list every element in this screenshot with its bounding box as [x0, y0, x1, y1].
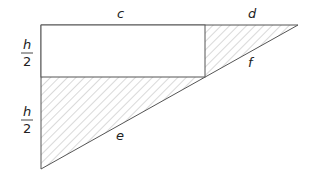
label-c: c	[117, 6, 124, 21]
label-f: f	[248, 55, 255, 70]
inner-rectangle	[41, 25, 205, 77]
label-h-lower: h	[23, 104, 31, 119]
label-h-upper: h	[23, 37, 31, 52]
label-e: e	[116, 128, 124, 143]
label-d: d	[248, 6, 257, 21]
geometry-diagram: c d f e h 2 h 2	[0, 0, 314, 178]
label-2-lower: 2	[23, 121, 31, 136]
label-2-upper: 2	[23, 54, 31, 69]
